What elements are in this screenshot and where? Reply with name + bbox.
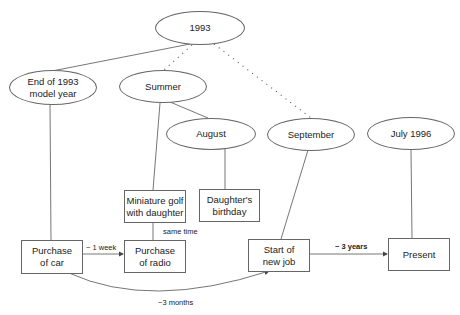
node-purchase-of-car-label: Purchase of car — [32, 245, 72, 269]
edge-label-1-week: ~ 1 week — [86, 243, 116, 252]
node-1993: 1993 — [155, 11, 245, 45]
edge-endyear-car — [50, 104, 51, 240]
edge-summer-august — [170, 102, 208, 118]
node-july-1996: July 1996 — [367, 117, 455, 150]
edge-1993-endyear — [52, 44, 190, 71]
node-miniature-golf-label: Miniature golf with daughter — [126, 195, 183, 219]
edge-label-3-years: ~ 3 years — [335, 242, 367, 251]
edge-label-3-months: ~3 months — [158, 298, 193, 307]
node-summer: Summer — [119, 70, 207, 103]
edge-july-present — [411, 149, 412, 238]
node-august-label: August — [196, 128, 226, 140]
node-purchase-of-radio-label: Purchase of radio — [135, 245, 175, 269]
node-september-label: September — [288, 129, 334, 141]
node-purchase-of-car: Purchase of car — [21, 240, 83, 274]
node-july-1996-label: July 1996 — [391, 128, 432, 140]
node-present: Present — [388, 238, 450, 271]
edge-car-job — [69, 271, 269, 291]
node-start-of-new-job: Start of new job — [248, 239, 310, 272]
node-summer-label: Summer — [145, 81, 181, 93]
node-daughters-birthday-label: Daughter's birthday — [207, 194, 253, 218]
edge-label-same-time: same time — [163, 227, 198, 236]
edge-september-job — [281, 150, 308, 239]
node-daughters-birthday: Daughter's birthday — [199, 189, 260, 222]
node-end-of-1993-model-year: End of 1993 model year — [9, 70, 97, 105]
node-1993-label: 1993 — [189, 22, 210, 34]
node-start-of-new-job-label: Start of new job — [263, 244, 296, 268]
node-miniature-golf: Miniature golf with daughter — [124, 190, 186, 223]
node-end-of-1993-label: End of 1993 model year — [27, 76, 78, 100]
node-september: September — [267, 118, 355, 151]
node-purchase-of-radio: Purchase of radio — [124, 240, 186, 273]
edge-summer-golf — [153, 103, 160, 190]
edge-1993-summer — [164, 45, 192, 70]
edge-1993-september — [214, 44, 311, 118]
node-present-label: Present — [403, 249, 436, 261]
node-august: August — [166, 118, 256, 150]
